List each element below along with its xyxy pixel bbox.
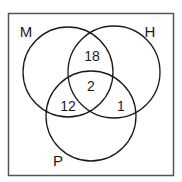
venn-diagram: M H P 18 2 12 1 [0,0,182,182]
region-m-h-value: 18 [84,48,100,64]
set-p-label: P [53,152,63,169]
region-m-h-p-value: 2 [87,78,95,94]
region-h-p-value: 1 [117,98,125,114]
region-m-p-value: 12 [60,98,76,114]
set-m-label: M [20,23,33,40]
set-h-label: H [145,23,156,40]
